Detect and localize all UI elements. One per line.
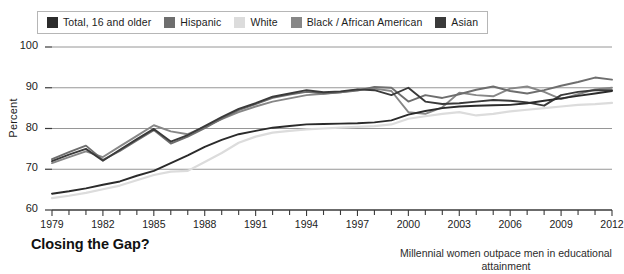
x-axis-tick-label: 1979 [40, 218, 63, 230]
x-axis-tick-label: 1988 [193, 218, 216, 230]
series-line-black-african-american [52, 87, 612, 164]
x-axis-tick-label: 1991 [244, 218, 267, 230]
y-axis-tick-label: 100 [14, 39, 38, 51]
x-axis-tick-label: 2006 [498, 218, 521, 230]
x-axis-tick-label: 2009 [549, 218, 572, 230]
x-axis-tick-label: 1985 [142, 218, 165, 230]
y-axis-title: Percent [7, 88, 19, 148]
x-axis-tick-label: 1994 [295, 218, 318, 230]
y-axis-tick-label: 70 [14, 161, 38, 173]
line-chart: Percent 60708090100197919821985198819911… [0, 0, 619, 232]
x-axis-tick-label: 2012 [600, 218, 623, 230]
infographic-title: Closing the Gap? [31, 236, 149, 252]
y-axis-tick-label: 60 [14, 202, 38, 214]
x-axis-tick-label: 1997 [346, 218, 369, 230]
y-axis-tick-label: 90 [14, 80, 38, 92]
series-line-white [52, 103, 612, 198]
series-line-hispanic [52, 78, 612, 160]
infographic-caption: Millennial women outpace men in educatio… [393, 247, 619, 273]
plot-canvas [0, 0, 619, 232]
series-line-total-16-and-older [52, 91, 612, 194]
x-axis-tick-label: 2003 [448, 218, 471, 230]
x-axis-tick-label: 2000 [397, 218, 420, 230]
y-axis-tick-label: 80 [14, 121, 38, 133]
x-axis-tick-label: 1982 [91, 218, 114, 230]
